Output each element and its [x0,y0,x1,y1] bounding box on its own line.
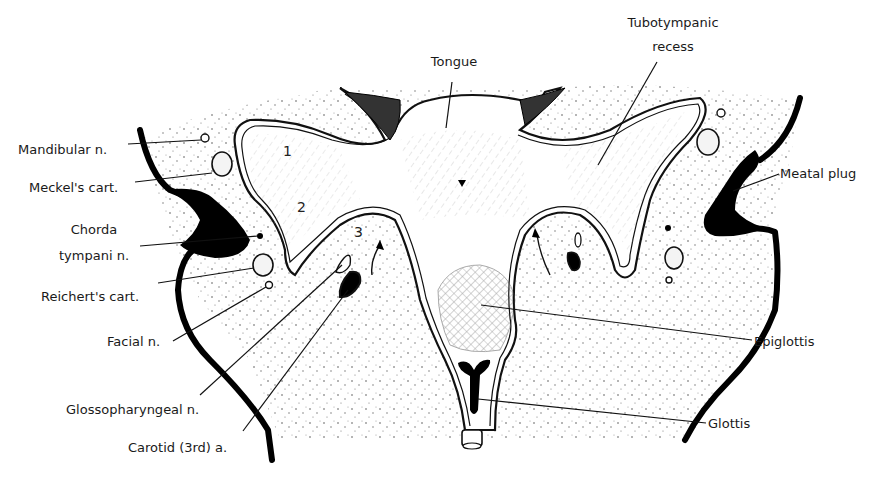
pouch-number-3: 3 [354,224,363,240]
right-glossopharyngeal-nerve [575,233,581,247]
reicherts-cartilage [253,254,273,276]
label-glottis: Glottis [708,416,750,431]
label-tongue: Tongue [430,54,477,69]
right-mandibular-nerve [717,109,725,117]
right-meckels-cartilage [697,129,719,155]
label-epiglottis: Epiglottis [754,334,815,349]
right-facial-nerve [666,277,672,283]
pouch-number-1: 1 [283,143,292,159]
label-chorda-line1: Chorda [71,222,118,237]
label-glossopharyngeal-nerve: Glossopharyngeal n. [66,402,199,417]
mandibular-nerve [201,134,209,142]
trachea-lumen [463,443,481,449]
label-chorda-line2: tympani n. [59,248,129,263]
label-reicherts-cartilage: Reichert's cart. [41,289,139,304]
label-carotid-artery: Carotid (3rd) a. [128,440,227,455]
label-tubotympanic-line1: Tubotympanic [626,15,718,30]
facial-nerve [266,282,273,289]
label-facial-nerve: Facial n. [107,334,160,349]
label-tubotympanic-line2: recess [652,39,694,54]
label-meckels-cartilage: Meckel's cart. [29,180,118,195]
tongue-texture [400,130,530,220]
label-meatal-plug: Meatal plug [780,166,856,181]
meckels-cartilage [212,152,232,176]
right-reicherts-cartilage [665,247,683,269]
pouch-number-2: 2 [297,199,306,215]
pharynx-diagram: 1 2 3 Tongue Tubotympanic recess Mandibu… [0,0,887,484]
right-chorda-dot [665,225,671,231]
label-mandibular-nerve: Mandibular n. [18,142,107,157]
